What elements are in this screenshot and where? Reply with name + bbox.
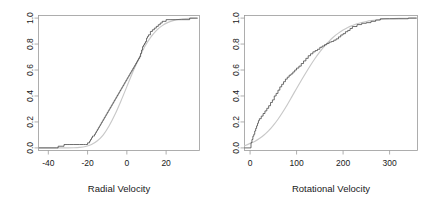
left-x-tick-labels: -40-20020: [42, 158, 171, 168]
ecdf-comparison-figure: 0.00.20.40.60.81.0 -40-20020 Radial Velo…: [0, 0, 427, 209]
left-y-tick-label: 0.6: [26, 64, 36, 76]
left-x-tick-label: -20: [81, 158, 94, 168]
left-x-tick-label: 20: [161, 158, 171, 168]
right-x-tick-label: 200: [336, 158, 350, 168]
panel-left-canvas: 0.00.20.40.60.81.0 -40-20020 Radial Velo…: [0, 0, 213, 209]
left-y-tick-labels: 0.00.20.40.60.81.0: [26, 12, 36, 154]
panel-right-canvas: 0.00.20.40.60.81.0 0100200300 Rotational…: [213, 0, 426, 209]
right-x-tick-labels: 0100200300: [248, 158, 397, 168]
right-x-axis-ticks: [250, 151, 390, 155]
panel-rotational-velocity: 0.00.20.40.60.81.0 0100200300 Rotational…: [213, 0, 426, 209]
right-fitted-normal-cdf-curve: [245, 18, 417, 146]
right-y-tick-label: 0.4: [232, 90, 242, 102]
panel-radial-velocity: 0.00.20.40.60.81.0 -40-20020 Radial Velo…: [0, 0, 213, 209]
right-x-tick-label: 0: [248, 158, 253, 168]
left-fitted-normal-cdf-curve: [39, 18, 198, 148]
right-y-tick-label: 1.0: [232, 12, 242, 24]
left-plot-box-group: [39, 16, 200, 151]
right-plot-box: [245, 16, 418, 151]
right-y-tick-labels: 0.00.20.40.60.81.0: [232, 12, 242, 154]
right-plot-box-group: [245, 16, 418, 151]
right-y-tick-label: 0.8: [232, 38, 242, 50]
right-y-tick-label: 0.2: [232, 116, 242, 128]
right-x-tick-label: 100: [289, 158, 303, 168]
right-x-axis-title: Rotational Velocity: [292, 183, 370, 194]
left-x-axis-ticks: [48, 151, 166, 155]
right-y-tick-label: 0.6: [232, 64, 242, 76]
right-x-tick-label: 300: [383, 158, 397, 168]
right-y-tick-label: 0.0: [232, 142, 242, 154]
left-y-tick-label: 0.8: [26, 38, 36, 50]
left-y-tick-label: 0.4: [26, 90, 36, 102]
left-x-tick-label: -40: [42, 158, 55, 168]
left-plot-box: [39, 16, 200, 151]
left-x-tick-label: 0: [124, 158, 129, 168]
left-y-tick-label: 0.2: [26, 116, 36, 128]
left-empirical-cdf-step: [39, 18, 198, 148]
left-y-tick-label: 0.0: [26, 142, 36, 154]
left-y-tick-label: 1.0: [26, 12, 36, 24]
left-x-axis-title: Radial Velocity: [88, 183, 151, 194]
